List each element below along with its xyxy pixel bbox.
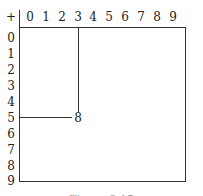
column-header: 1 — [42, 11, 50, 23]
column-header: 0 — [26, 11, 34, 23]
row-header: 9 — [7, 175, 15, 187]
column-header: 3 — [74, 11, 82, 23]
row-5-guide-line — [19, 117, 72, 118]
row-header: 3 — [7, 80, 15, 92]
row-header: 6 — [7, 128, 15, 140]
bottom-border-line — [19, 181, 186, 182]
top-border-line — [19, 27, 186, 28]
column-header: 7 — [137, 11, 145, 23]
column-header: 8 — [153, 11, 161, 23]
row-header: 0 — [7, 32, 15, 44]
column-header: 5 — [105, 11, 113, 23]
column-header: 4 — [89, 11, 97, 23]
figure-caption: Figure 2.15 — [69, 193, 134, 196]
row-header: 2 — [7, 64, 15, 76]
row-header: 5 — [7, 112, 15, 124]
row-header: 8 — [7, 160, 15, 172]
row-header: 1 — [7, 48, 15, 60]
column-header: 9 — [169, 11, 177, 23]
column-header: 2 — [58, 11, 66, 23]
vertical-axis-line — [19, 10, 20, 182]
row-header: 7 — [7, 144, 15, 156]
result-value: 8 — [74, 112, 82, 124]
column-3-guide-line — [78, 27, 79, 112]
right-border-line — [185, 27, 186, 182]
corner-plus-symbol: + — [6, 11, 16, 23]
row-header: 4 — [7, 96, 15, 108]
column-header: 6 — [121, 11, 129, 23]
